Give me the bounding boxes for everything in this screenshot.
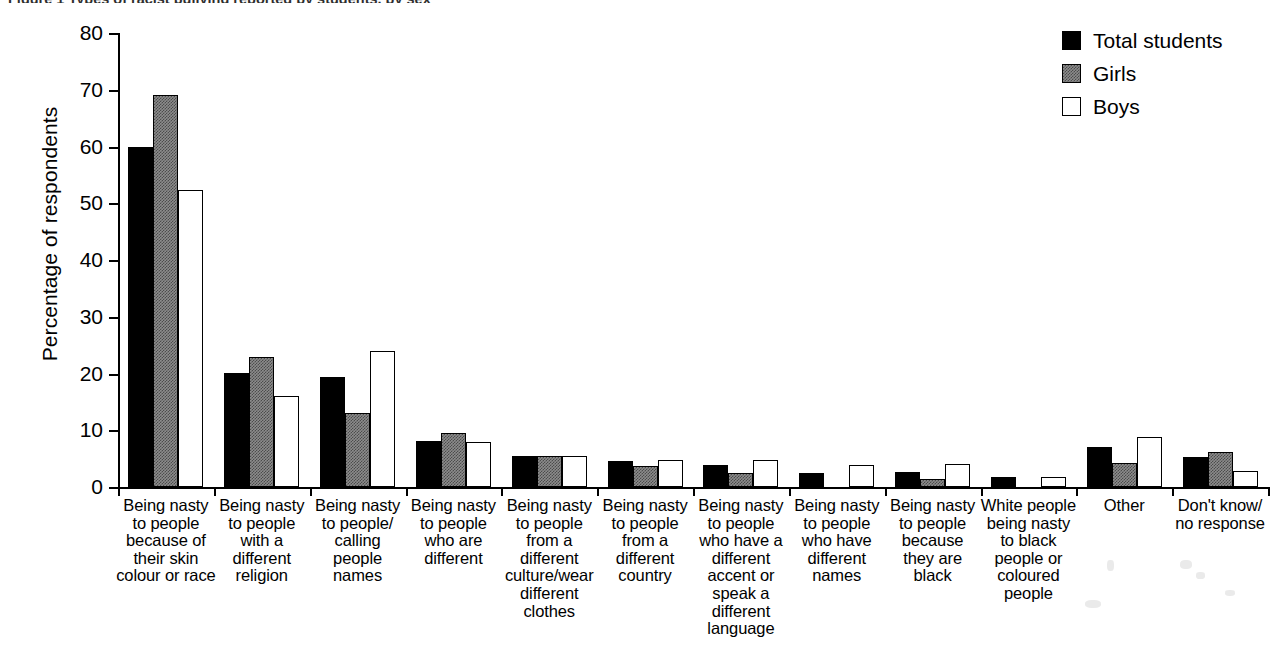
x-axis-tick	[885, 487, 887, 496]
bar-boys	[1233, 471, 1258, 487]
category-label-line: speak a	[688, 585, 794, 603]
bar-total	[128, 147, 153, 488]
category-label-line: different	[688, 603, 794, 621]
scan-speck	[1225, 590, 1235, 596]
legend-item: Total students	[1062, 24, 1223, 57]
bar-total	[1087, 447, 1112, 487]
y-axis-tick-label: 80	[57, 22, 117, 43]
category-label-line: different	[209, 550, 315, 568]
category-label-line: being nasty	[976, 515, 1082, 533]
bar-total	[703, 465, 728, 487]
x-axis-category-label: Being nastyto peoplewho have adifferenta…	[688, 497, 794, 638]
x-axis-tick	[981, 487, 983, 496]
bar-boys	[466, 442, 491, 487]
category-label-line: Being nasty	[401, 497, 507, 515]
category-label-line: to people/	[305, 515, 411, 533]
category-label-line: to people	[784, 515, 890, 533]
bar-girls	[728, 473, 753, 487]
category-label-line: who have a	[688, 532, 794, 550]
bar-girls	[633, 466, 658, 487]
y-axis-line	[118, 33, 120, 487]
bar-boys	[370, 351, 395, 487]
category-label-line: Don't know/	[1167, 497, 1273, 515]
x-axis-tick	[214, 487, 216, 496]
y-axis-tick-label: 20	[57, 363, 117, 384]
category-label-line: clothes	[496, 603, 602, 621]
x-axis-category-label: Other	[1071, 497, 1177, 515]
category-label-line: White people	[976, 497, 1082, 515]
category-label-line: names	[784, 567, 890, 585]
figure-page: Figure 1 Types of racist bullying report…	[0, 0, 1280, 672]
figure-title: Figure 1 Types of racist bullying report…	[8, 0, 1272, 3]
category-label-line: to black	[976, 532, 1082, 550]
category-label-line: different	[401, 550, 507, 568]
bar-total	[320, 377, 345, 487]
category-label-line: Other	[1071, 497, 1177, 515]
y-axis-tick-label: 30	[57, 306, 117, 327]
x-axis-category-label: Being nastyto peoplebecausethey areblack	[880, 497, 986, 585]
category-label-line: they are	[880, 550, 986, 568]
legend-item: Girls	[1062, 57, 1223, 90]
scan-speck	[1180, 560, 1192, 569]
category-label-line: with a	[209, 532, 315, 550]
x-axis-tick	[789, 487, 791, 496]
category-label-line: Being nasty	[784, 497, 890, 515]
x-axis-tick	[1172, 487, 1174, 496]
legend-label: Total students	[1093, 29, 1223, 53]
legend-swatch-boys	[1062, 97, 1081, 116]
x-axis-tick	[597, 487, 599, 496]
legend-item: Boys	[1062, 90, 1223, 123]
x-axis-category-label: Being nastyto peoplewho havedifferentnam…	[784, 497, 890, 585]
bar-boys	[274, 396, 299, 487]
category-label-line: people	[305, 550, 411, 568]
x-axis-category-label: Being nastyto peoplefrom adifferentcultu…	[496, 497, 602, 620]
x-axis-tick	[1076, 487, 1078, 496]
x-axis-category-label: White peoplebeing nastyto blackpeople or…	[976, 497, 1082, 603]
category-label-line: who are	[401, 532, 507, 550]
x-axis-tick	[693, 487, 695, 496]
legend: Total studentsGirlsBoys	[1062, 24, 1223, 123]
category-label-line: country	[592, 567, 698, 585]
category-label-line: to people	[592, 515, 698, 533]
category-label-line: from a	[592, 532, 698, 550]
category-label-line: religion	[209, 567, 315, 585]
category-label-line: their skin	[113, 550, 219, 568]
bar-girls	[537, 456, 562, 487]
bar-boys	[1137, 437, 1162, 488]
category-label-line: Being nasty	[496, 497, 602, 515]
bar-total	[991, 477, 1016, 487]
bar-boys	[178, 190, 203, 487]
bar-girls	[1208, 452, 1233, 487]
bar-girls	[1112, 463, 1137, 487]
bar-total	[799, 473, 824, 487]
category-label-line: to people	[496, 515, 602, 533]
y-axis-tick-label: 40	[57, 249, 117, 270]
category-label-line: to people	[880, 515, 986, 533]
category-label-line: people	[976, 585, 1082, 603]
category-label-line: people or	[976, 550, 1082, 568]
category-label-line: Being nasty	[305, 497, 411, 515]
category-label-line: Being nasty	[209, 497, 315, 515]
category-label-line: who have	[784, 532, 890, 550]
category-label-line: different	[784, 550, 890, 568]
bar-total	[895, 472, 920, 487]
bar-total	[224, 373, 249, 487]
scan-speck	[1085, 600, 1101, 608]
category-label-line: different	[496, 585, 602, 603]
bar-boys	[849, 465, 874, 487]
bar-girls	[249, 357, 274, 487]
category-label-line: different	[688, 550, 794, 568]
y-axis-tick-label: 10	[57, 419, 117, 440]
legend-label: Girls	[1093, 62, 1136, 86]
x-axis-category-label: Don't know/no response	[1167, 497, 1273, 532]
bar-total	[1183, 457, 1208, 487]
legend-swatch-girls	[1062, 64, 1081, 83]
bar-boys	[753, 460, 778, 487]
legend-swatch-total	[1062, 31, 1081, 50]
category-label-line: Being nasty	[688, 497, 794, 515]
bar-total	[416, 441, 441, 487]
category-label-line: to people	[401, 515, 507, 533]
y-axis-tick-label: 50	[57, 192, 117, 213]
category-label-line: colour or race	[113, 567, 219, 585]
category-label-line: different	[496, 550, 602, 568]
